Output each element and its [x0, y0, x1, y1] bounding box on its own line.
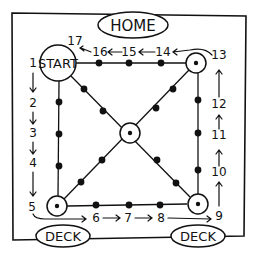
corner-space-top-right: [186, 53, 206, 73]
corner-space-bottom-left: [47, 196, 67, 216]
arrow-right-icon: [135, 215, 152, 221]
path-number-11: 11: [211, 128, 226, 142]
path-number-1: 1: [29, 56, 37, 70]
arrow-right-icon: [168, 216, 211, 222]
arrow-up-icon: [216, 70, 222, 97]
path-number-2: 2: [29, 96, 37, 110]
arrow-up-icon: [216, 150, 222, 166]
arrow-right-icon: [103, 215, 120, 221]
path-number-8: 8: [157, 211, 165, 225]
corner-space-bottom-right: [188, 194, 208, 214]
path-number-7: 7: [124, 211, 132, 225]
center-space: [120, 123, 140, 143]
path-number-15: 15: [121, 45, 136, 59]
path-number-9: 9: [215, 209, 223, 223]
home-label: HOME: [110, 17, 156, 35]
path-number-13: 13: [211, 48, 226, 62]
path-number-3: 3: [29, 126, 37, 140]
path-number-17: 17: [67, 34, 82, 48]
arrow-down-icon: [30, 112, 36, 124]
arrow-up-icon: [216, 182, 222, 206]
arrow-down-icon: [30, 142, 36, 154]
deck-right-label: DECK: [180, 229, 216, 244]
arrow-left-icon: [80, 46, 91, 52]
path-number-12: 12: [211, 97, 226, 111]
arrow-down-icon: [30, 172, 36, 196]
path-number-10: 10: [211, 165, 226, 179]
start-label: START: [38, 56, 78, 71]
game-board: START HOME DECK DECK 1 2 3 4 5 6 7 8 9 1…: [0, 0, 258, 265]
arrow-up-icon: [216, 115, 222, 129]
path-number-14: 14: [155, 45, 170, 59]
path-number-4: 4: [29, 156, 37, 170]
arrow-left-icon: [139, 49, 155, 55]
arrow-left-icon: [108, 49, 122, 55]
deck-left-label: DECK: [45, 229, 81, 244]
path-number-6: 6: [92, 211, 100, 225]
path-number-16: 16: [92, 45, 107, 59]
path-number-5: 5: [28, 200, 36, 214]
arrow-down-icon: [30, 73, 36, 92]
